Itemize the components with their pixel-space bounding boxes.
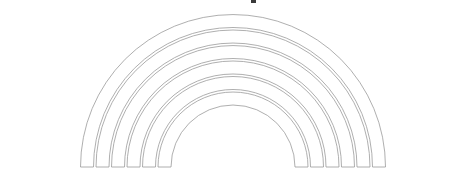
arc-band-4 bbox=[112, 46, 355, 167]
concentric-arcs-diagram bbox=[0, 0, 465, 180]
arc-band-5 bbox=[96, 30, 370, 167]
arc-band-6-outermost bbox=[81, 15, 386, 167]
figure-canvas bbox=[0, 0, 465, 180]
arc-band-1-innermost bbox=[158, 92, 308, 167]
arc-band-2 bbox=[143, 77, 324, 168]
top-edge-mark bbox=[251, 0, 256, 3]
arc-band-group bbox=[81, 15, 386, 167]
